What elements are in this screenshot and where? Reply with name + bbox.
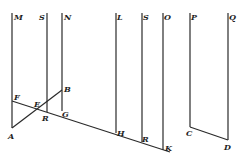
label-H: H: [116, 128, 125, 138]
label-L: L: [116, 12, 123, 22]
geometry-diagram: M S N L S O P Q F E B A R G H R K C D: [0, 0, 241, 159]
label-K: K: [164, 143, 173, 153]
label-G: G: [62, 109, 69, 119]
label-O: O: [164, 12, 171, 22]
label-B: B: [63, 84, 71, 94]
label-E: E: [33, 99, 41, 109]
label-S: S: [39, 12, 45, 22]
line-CD: [190, 127, 228, 140]
label-P: P: [190, 12, 198, 22]
label-Q: Q: [229, 12, 236, 22]
label-A: A: [7, 131, 14, 141]
label-F: F: [13, 92, 21, 102]
label-R: R: [41, 113, 49, 123]
label-R-2: R: [141, 134, 149, 144]
label-D: D: [223, 142, 231, 152]
label-M: M: [13, 12, 24, 22]
label-N: N: [63, 12, 72, 22]
label-S-2: S: [143, 12, 149, 22]
label-C: C: [186, 128, 193, 138]
